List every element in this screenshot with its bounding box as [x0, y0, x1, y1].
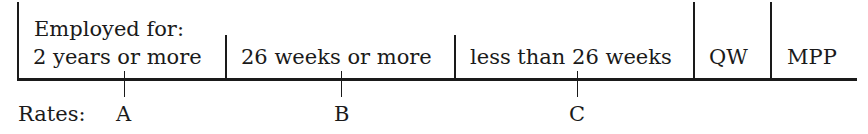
baseline	[17, 78, 857, 81]
tick-a	[124, 71, 125, 97]
rate-c: C	[569, 102, 585, 126]
header-label: Employed for:	[34, 17, 184, 41]
divider-2	[454, 35, 456, 80]
left-border	[17, 2, 19, 81]
segment-label-2-years: 2 years or more	[33, 45, 202, 69]
tick-b	[341, 71, 342, 97]
segment-label-mpp: MPP	[787, 45, 837, 69]
segment-label-26-weeks-or-more: 26 weeks or more	[241, 45, 432, 69]
divider-1	[225, 35, 227, 80]
segment-label-qw: QW	[709, 45, 748, 69]
segment-label-less-than-26-weeks: less than 26 weeks	[470, 45, 672, 69]
rate-a: A	[116, 102, 131, 126]
rates-label: Rates:	[18, 102, 86, 126]
rate-b: B	[334, 102, 349, 126]
tick-c	[577, 71, 578, 97]
divider-3	[693, 2, 695, 80]
divider-4	[770, 2, 772, 80]
